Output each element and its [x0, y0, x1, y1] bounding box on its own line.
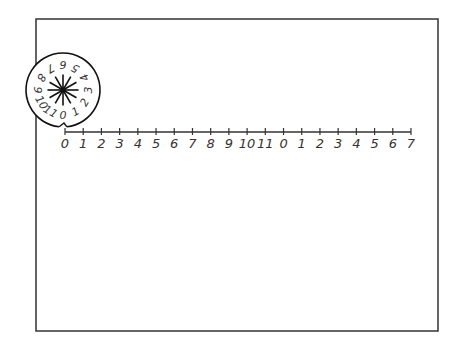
tick-label: 5	[152, 136, 160, 151]
tick-label: 4	[352, 136, 360, 151]
tick-label: 7	[407, 136, 416, 151]
tick-label: 6	[389, 136, 397, 151]
diagram-frame	[36, 19, 438, 331]
wheel-label: 0	[60, 109, 67, 122]
tick-label: 9	[225, 136, 233, 151]
tick-label: 1	[298, 136, 306, 151]
tick-label: 2	[97, 136, 105, 151]
tick-label: 10	[239, 136, 256, 151]
number-wheel: 01234567891011	[26, 53, 100, 127]
number-line: 0123456789101101234567	[61, 128, 416, 151]
tick-label: 7	[188, 136, 197, 151]
tick-label: 6	[170, 136, 178, 151]
tick-label: 1	[79, 136, 87, 151]
wheel-label: 9	[31, 87, 44, 94]
tick-label: 11	[257, 136, 274, 151]
tick-label: 8	[207, 136, 215, 151]
wheel-label: 3	[82, 87, 95, 94]
tick-label: 3	[334, 136, 342, 151]
tick-label: 0	[61, 136, 69, 151]
clock-arithmetic-diagram: 01234567891011 0123456789101101234567	[0, 0, 462, 345]
tick-label: 3	[115, 136, 123, 151]
tick-label: 4	[134, 136, 142, 151]
tick-label: 5	[370, 136, 378, 151]
wheel-label: 6	[60, 58, 67, 71]
tick-label: 2	[316, 136, 324, 151]
wheel-hub	[61, 88, 66, 93]
tick-label: 0	[279, 136, 287, 151]
